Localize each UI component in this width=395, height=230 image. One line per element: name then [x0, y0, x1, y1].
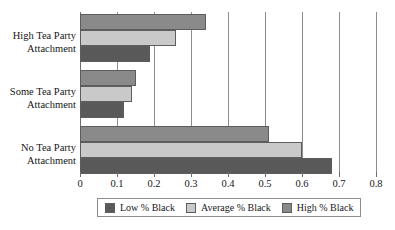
bar-group-0-low [80, 46, 150, 62]
legend-swatch-high-icon [282, 203, 292, 213]
bar-group-1-high [80, 70, 136, 86]
x-tick-0 [80, 172, 81, 177]
bar-chart: High Tea Party Attachment Some Tea Party… [0, 0, 395, 230]
x-tick-0.2 [154, 172, 155, 177]
legend-label-average: Average % Black [201, 202, 271, 213]
x-tick-label-0.3: 0.3 [171, 178, 211, 189]
bar-group-1-low [80, 102, 124, 118]
gridline-0.7 [339, 12, 340, 172]
bar-group-1-average [80, 86, 132, 102]
legend-item-high: High % Black [282, 202, 354, 213]
legend-item-average: Average % Black [186, 202, 271, 213]
legend-item-low: Low % Black [105, 202, 175, 213]
x-tick-label-0.1: 0.1 [97, 178, 137, 189]
x-tick-0.1 [117, 172, 118, 177]
x-axis: 00.10.20.30.40.50.60.70.8 [80, 172, 376, 194]
category-label-no-tea-party: No Tea Party Attachment [0, 142, 76, 167]
x-tick-label-0.8: 0.8 [356, 178, 395, 189]
bar-group-2-high [80, 126, 269, 142]
x-tick-0.6 [302, 172, 303, 177]
x-tick-0.5 [265, 172, 266, 177]
x-tick-label-0.6: 0.6 [282, 178, 322, 189]
legend-swatch-low-icon [105, 203, 115, 213]
bar-group-2-average [80, 142, 302, 158]
x-tick-0.8 [376, 172, 377, 177]
x-tick-label-0.2: 0.2 [134, 178, 174, 189]
x-tick-0.4 [228, 172, 229, 177]
legend-label-low: Low % Black [120, 202, 175, 213]
category-label-some-tea-party: Some Tea Party Attachment [0, 86, 76, 111]
bar-group-0-high [80, 14, 206, 30]
x-tick-label-0.4: 0.4 [208, 178, 248, 189]
gridline-0.6 [302, 12, 303, 172]
gridline-0.8 [376, 12, 377, 172]
bar-group-0-average [80, 30, 176, 46]
plot-area [80, 12, 376, 172]
legend-label-high: High % Black [297, 202, 354, 213]
x-tick-0.7 [339, 172, 340, 177]
x-tick-label-0.5: 0.5 [245, 178, 285, 189]
x-tick-label-0.7: 0.7 [319, 178, 359, 189]
legend-swatch-average-icon [186, 203, 196, 213]
x-tick-0.3 [191, 172, 192, 177]
category-label-high-tea-party: High Tea Party Attachment [0, 30, 76, 55]
x-tick-label-0: 0 [60, 178, 100, 189]
legend: Low % Black Average % Black High % Black [97, 198, 361, 217]
